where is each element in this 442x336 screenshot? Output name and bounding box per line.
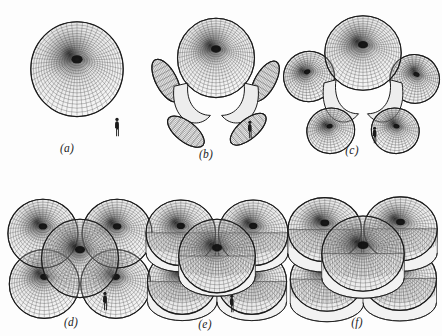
human-figure-scale-marker xyxy=(113,117,121,137)
panel-a xyxy=(10,6,144,164)
panel-label-f: (f) xyxy=(341,316,373,328)
panel-b xyxy=(146,2,286,164)
human-figure-scale-marker xyxy=(246,120,254,139)
panel-c xyxy=(288,2,438,164)
panel-d xyxy=(10,172,150,332)
panel-label-c: (c) xyxy=(336,144,368,156)
panel-f xyxy=(288,172,438,332)
panel-label-d: (d) xyxy=(55,316,87,328)
panel-label-a: (a) xyxy=(51,142,83,154)
human-figure-scale-marker xyxy=(371,126,378,144)
figure-container: (a)(b)(c)(d)(e)(f) xyxy=(0,0,442,336)
panel-e xyxy=(146,172,288,332)
panel-label-e: (e) xyxy=(189,318,221,330)
human-figure-scale-marker xyxy=(228,294,236,313)
human-figure-scale-marker xyxy=(101,291,109,311)
panel-label-b: (b) xyxy=(190,148,222,160)
